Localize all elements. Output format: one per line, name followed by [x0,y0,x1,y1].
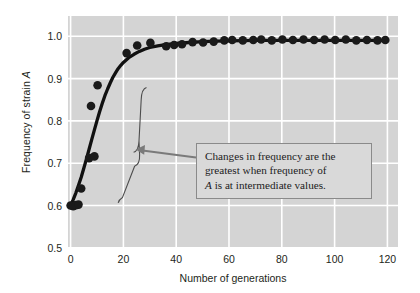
x-tick-label: 60 [209,253,249,265]
y-axis-label: Frequency of strain A [20,22,32,222]
y-axis-label-allele: A [20,71,32,78]
x-tick-label: 40 [156,253,196,265]
steep-region-bracket [118,88,146,203]
callout-arrow [136,145,196,158]
annotation-line-1: Changes in frequency are the [205,149,364,163]
x-tick-label: 120 [367,253,407,265]
figure-container: 1.0 0.9 0.8 0.7 0.6 0.5 0 20 40 60 80 10… [0,0,420,293]
x-tick-label: 20 [103,253,143,265]
annotation-allele-symbol: A [205,179,212,191]
x-axis-label: Number of generations [68,272,398,284]
gridlines-vertical [71,16,388,248]
annotation-line-2: greatest when frequency of [205,163,364,177]
y-tick-label: 0.5 [22,242,62,254]
annotation-callout: Changes in frequency are the greatest wh… [196,143,372,199]
y-axis-label-text: Frequency of strain [20,78,32,173]
x-tick-label: 100 [315,253,355,265]
annotation-line-3-rest: is at intermediate values. [212,179,326,191]
annotation-line-3: A is at intermediate values. [205,178,364,192]
x-tick-label: 0 [51,253,91,265]
x-tick-label: 80 [262,253,302,265]
